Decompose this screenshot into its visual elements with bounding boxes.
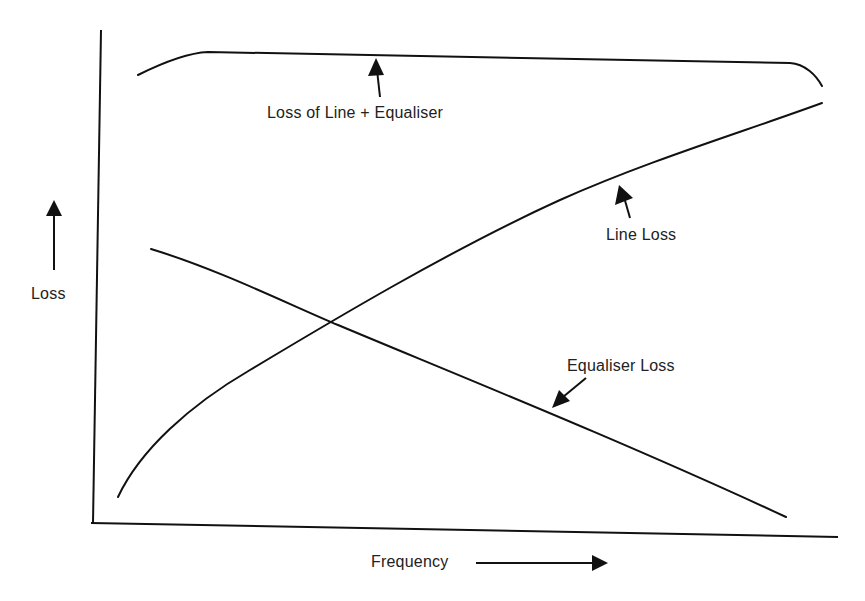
y-axis	[93, 30, 101, 523]
x-axis-label: Frequency	[371, 553, 448, 571]
equaliser-loss-curve	[151, 249, 786, 517]
loss-up-arrow-icon	[46, 200, 62, 270]
y-axis-label: Loss	[31, 285, 66, 303]
line-loss-pointer-icon	[615, 185, 633, 218]
equaliser-loss-label: Equaliser Loss	[567, 357, 675, 375]
frequency-right-arrow-icon	[476, 555, 608, 571]
x-axis	[91, 523, 838, 537]
loss-vs-frequency-diagram	[0, 0, 865, 601]
line-loss-label: Line Loss	[606, 226, 676, 244]
equaliser-loss-pointer-icon	[552, 378, 586, 408]
total-loss-curve	[138, 52, 822, 86]
total-loss-label: Loss of Line + Equaliser	[267, 104, 443, 122]
line-loss-curve	[118, 103, 822, 497]
total-loss-pointer-icon	[368, 58, 384, 97]
